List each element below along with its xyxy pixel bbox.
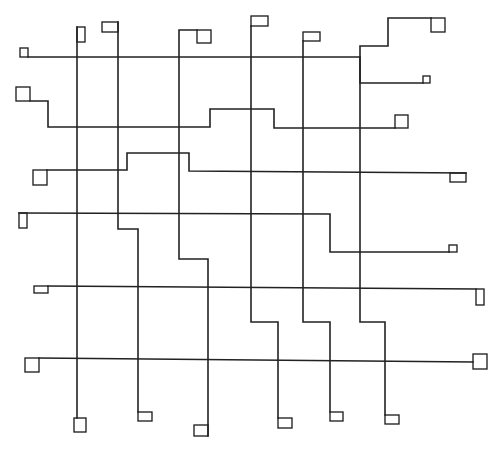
pin-pad-icon (16, 87, 30, 101)
pin-pad-icon (102, 22, 118, 32)
pin-pad-icon (77, 27, 85, 42)
wire-segment (118, 22, 138, 412)
pin-pad-icon (330, 412, 343, 421)
wire-segment (30, 101, 395, 128)
pin-pad-icon (385, 415, 399, 424)
horizontal-net-3 (33, 153, 466, 185)
pin-pad-icon (33, 170, 47, 185)
wire-segment (303, 41, 330, 412)
vertical-net-4 (251, 16, 292, 428)
pin-pad-icon (431, 18, 445, 32)
pin-pad-icon (303, 32, 320, 41)
horizontal-net-4 (19, 213, 457, 252)
wire-segment (48, 286, 476, 289)
vertical-net-5 (303, 32, 343, 421)
horizontal-net-1 (20, 48, 430, 83)
pin-pad-icon (278, 418, 292, 428)
pin-pad-icon (251, 16, 268, 26)
wire-segment (47, 153, 466, 173)
pin-pad-icon (34, 286, 48, 293)
vertical-net-3 (179, 30, 211, 436)
horizontal-net-2 (16, 87, 408, 128)
figure-caption (0, 443, 503, 455)
pin-pad-icon (197, 30, 211, 43)
pin-pad-icon (25, 358, 39, 372)
vertical-net-2 (102, 22, 152, 421)
pin-pad-icon (74, 418, 86, 432)
pin-pad-icon (395, 115, 408, 128)
pin-pad-icon (20, 48, 28, 57)
pin-pad-icon (138, 412, 152, 421)
pin-pad-icon (450, 173, 466, 182)
pin-pad-icon (476, 289, 484, 305)
pin-pad-icon (19, 213, 27, 228)
vertical-net-1 (74, 27, 86, 432)
pin-pad-icon (473, 354, 487, 369)
wire-segment (360, 18, 431, 415)
horizontal-net-5 (34, 286, 484, 305)
pin-pad-icon (194, 425, 208, 436)
pin-pad-icon (423, 76, 430, 83)
vertical-net-6 (360, 18, 445, 424)
vertical-nets (74, 16, 445, 436)
wire-segment (28, 57, 423, 83)
pin-pad-icon (449, 245, 457, 252)
wire-segment (19, 213, 449, 252)
wire-segment (39, 358, 473, 362)
wire-segment (179, 30, 208, 436)
horizontal-net-6 (25, 354, 487, 372)
routing-diagram (0, 0, 503, 455)
